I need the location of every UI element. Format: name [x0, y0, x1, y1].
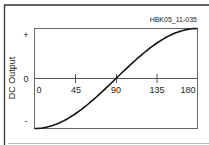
y-tick-plus: + [23, 30, 28, 40]
y-tick-minus: - [25, 116, 28, 126]
y-tick-zero: 0 [23, 74, 28, 84]
chart-figure: HBK05_11-035 + 0 - DC Output 0 45 90 135… [0, 0, 209, 145]
x-tick-label-135: 135 [149, 85, 164, 95]
x-tick-label-180: 180 [180, 85, 195, 95]
x-tick-label-0: 0 [36, 85, 41, 95]
figure-id-annotation: HBK05_11-035 [150, 16, 197, 24]
y-axis-label: DC Output [7, 56, 17, 99]
x-tick-label-90: 90 [111, 85, 121, 95]
x-tick-label-45: 45 [71, 85, 81, 95]
